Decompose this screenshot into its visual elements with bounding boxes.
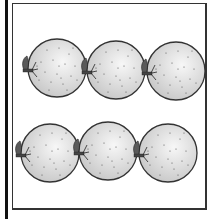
peel-dot <box>40 61 41 62</box>
peel-dot <box>183 132 184 133</box>
peel-dot <box>117 49 118 50</box>
peel-dot <box>167 92 168 93</box>
peel-dot <box>123 130 124 131</box>
peel-dot <box>29 150 30 151</box>
peel-dot <box>147 150 148 151</box>
peel-dot <box>45 144 46 145</box>
peel-dot <box>163 144 164 145</box>
peel-dot <box>149 164 150 165</box>
peel-dot <box>59 174 60 175</box>
peel-dot <box>56 73 57 74</box>
peel-dot <box>76 79 77 80</box>
peel-dot <box>53 162 54 163</box>
fruit-body <box>28 39 86 97</box>
peel-dot <box>95 154 96 155</box>
orange-6 <box>134 124 197 182</box>
peel-dot <box>121 85 122 86</box>
orange-3 <box>142 42 205 100</box>
peel-dot <box>69 164 70 165</box>
peel-dot <box>33 146 34 147</box>
peel-dot <box>52 59 53 60</box>
peel-dot <box>185 92 186 93</box>
peel-dot <box>101 164 102 165</box>
peel-dot <box>111 61 112 62</box>
orange-1 <box>23 39 86 97</box>
peel-dot <box>179 138 180 139</box>
peel-dot <box>177 174 178 175</box>
peel-dot <box>193 68 194 69</box>
peel-dot <box>72 47 73 48</box>
peel-dot <box>74 65 75 66</box>
peel-dot <box>117 67 118 68</box>
peel-dot <box>155 68 156 69</box>
peel-dot <box>117 172 118 173</box>
peel-dot <box>87 148 88 149</box>
peel-dot <box>111 160 112 161</box>
peel-dot <box>97 81 98 82</box>
peel-dot <box>169 132 170 133</box>
peel-dot <box>127 55 128 56</box>
peel-dot <box>46 49 47 50</box>
peel-dot <box>41 174 42 175</box>
peel-dot <box>133 67 134 68</box>
peel-dot <box>189 78 190 79</box>
orange-5 <box>74 122 137 180</box>
peel-dot <box>65 132 66 133</box>
peel-dot <box>70 75 71 76</box>
peel-dot <box>185 150 186 151</box>
oranges-illustration <box>0 0 214 219</box>
peel-dot <box>179 80 180 81</box>
peel-dot <box>109 130 110 131</box>
peel-dot <box>37 156 38 157</box>
peel-dot <box>49 158 50 159</box>
peel-dot <box>135 81 136 82</box>
fruit-body <box>147 42 205 100</box>
peel-dot <box>165 52 166 53</box>
peel-dot <box>61 138 62 139</box>
peel-dot <box>58 65 59 66</box>
peel-dot <box>62 83 63 84</box>
peel-dot <box>31 164 32 165</box>
peel-dot <box>115 146 116 147</box>
peel-dot <box>159 64 160 65</box>
peel-dot <box>97 132 98 133</box>
peel-dot <box>109 83 110 84</box>
peel-dot <box>43 166 44 167</box>
peel-dot <box>105 51 106 52</box>
peel-dot <box>171 62 172 63</box>
peel-dot <box>95 67 96 68</box>
orange-4 <box>16 124 79 182</box>
peel-dot <box>44 71 45 72</box>
peel-dot <box>38 79 39 80</box>
peel-dot <box>183 66 184 67</box>
peel-dot <box>119 136 120 137</box>
peel-dot <box>63 160 64 161</box>
peel-dot <box>125 148 126 149</box>
peel-dot <box>107 91 108 92</box>
peel-dot <box>113 166 114 167</box>
peel-dot <box>109 148 110 149</box>
peel-dot <box>107 156 108 157</box>
peel-dot <box>99 172 100 173</box>
peel-dot <box>51 132 52 133</box>
peel-dot <box>51 150 52 151</box>
peel-dot <box>91 144 92 145</box>
peel-dot <box>60 77 61 78</box>
peel-dot <box>58 47 59 48</box>
orange-2 <box>82 41 145 99</box>
peel-dot <box>195 82 196 83</box>
peel-dot <box>103 73 104 74</box>
peel-dot <box>89 162 90 163</box>
peel-dot <box>115 75 116 76</box>
fruit-body <box>139 124 197 182</box>
peel-dot <box>55 168 56 169</box>
peel-dot <box>127 162 128 163</box>
peel-dot <box>123 65 124 66</box>
peel-dot <box>159 174 160 175</box>
peel-dot <box>39 134 40 135</box>
peel-dot <box>187 164 188 165</box>
peel-dot <box>119 79 120 80</box>
peel-dot <box>57 148 58 149</box>
peel-dot <box>175 148 176 149</box>
peel-dot <box>64 63 65 64</box>
